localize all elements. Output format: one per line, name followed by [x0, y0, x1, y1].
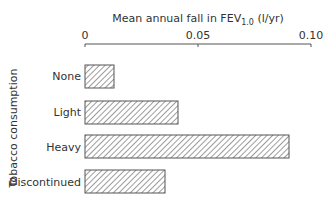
y-axis-title: Tobacco consumption [7, 69, 20, 189]
bar-heavy: Heavy [46, 135, 289, 158]
category-label-heavy: Heavy [46, 141, 81, 154]
tick-label-1: 0.05 [186, 29, 211, 42]
x-axis: 0 0.05 0.10 [82, 29, 324, 47]
category-label-none: None [52, 70, 81, 83]
bar-none: None [52, 65, 114, 88]
bars: None Light Heavy Discontinued [9, 65, 289, 193]
bar-chart: Mean annual fall in FEV1.0 (l/yr) 0 0.05… [0, 0, 331, 201]
bar-light: Light [54, 101, 178, 124]
category-label-light: Light [54, 106, 82, 119]
x-axis-title: Mean annual fall in FEV1.0 (l/yr) [112, 12, 284, 27]
tick-label-2: 0.10 [299, 29, 324, 42]
tick-label-0: 0 [82, 29, 89, 42]
category-label-discontinued: Discontinued [9, 176, 81, 189]
bar-discontinued: Discontinued [9, 170, 165, 193]
